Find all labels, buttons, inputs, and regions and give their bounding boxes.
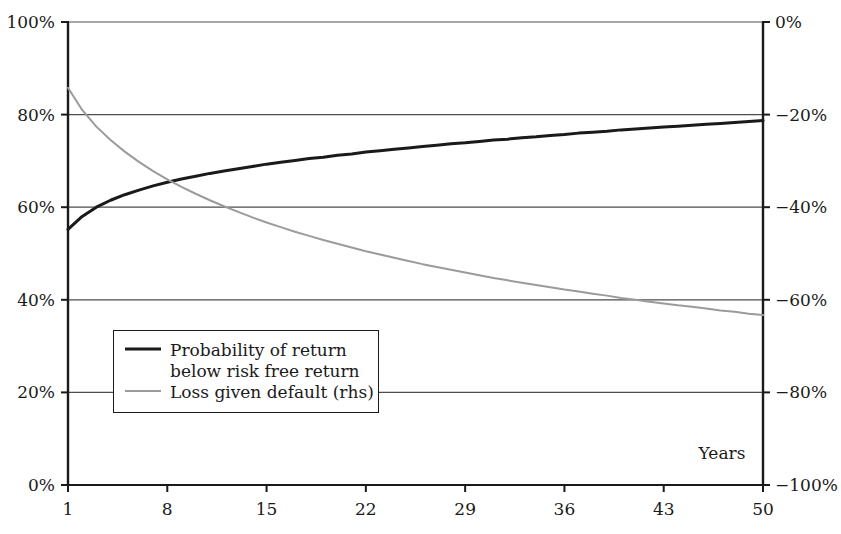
x-axis-title: Years xyxy=(699,443,746,463)
legend-label: Loss given default (rhs) xyxy=(170,382,374,403)
x-tick-label: 50 xyxy=(752,501,774,518)
left-tick-label: 40% xyxy=(0,291,55,308)
legend-label: Probability of return below risk free re… xyxy=(170,340,375,381)
right-tick-label: −40% xyxy=(775,199,827,216)
x-tick-label: 15 xyxy=(256,501,278,518)
legend: Probability of return below risk free re… xyxy=(113,330,379,413)
left-tick-label: 20% xyxy=(0,384,55,401)
left-tick-label: 100% xyxy=(0,14,55,31)
right-tick-label: −80% xyxy=(775,384,827,401)
left-tick-label: 60% xyxy=(0,199,55,216)
x-tick-label: 22 xyxy=(355,501,377,518)
chart-figure: 0%20%40%60%80%100% −100%−80%−60%−40%−20%… xyxy=(0,0,841,534)
x-tick-label: 43 xyxy=(653,501,675,518)
right-tick-label: −100% xyxy=(775,477,838,494)
left-tick-label: 0% xyxy=(0,477,55,494)
x-tick-label: 29 xyxy=(454,501,476,518)
x-tick-label: 8 xyxy=(162,501,173,518)
series-lines xyxy=(68,88,763,315)
x-tick-label: 36 xyxy=(554,501,576,518)
right-tick-label: −20% xyxy=(775,106,827,123)
x-tick-label: 1 xyxy=(63,501,74,518)
series-line-1 xyxy=(68,88,763,315)
right-tick-label: −60% xyxy=(775,291,827,308)
legend-swatch-gray-line xyxy=(125,382,161,399)
legend-entry-probability: Probability of return below risk free re… xyxy=(125,340,375,381)
legend-swatch-black-line xyxy=(125,340,161,357)
tick-marks xyxy=(61,22,770,492)
axis-lines xyxy=(68,22,763,485)
series-line-0 xyxy=(68,121,763,230)
left-tick-label: 80% xyxy=(0,106,55,123)
legend-entry-loss-given-default: Loss given default (rhs) xyxy=(125,382,374,403)
right-tick-label: 0% xyxy=(775,14,802,31)
